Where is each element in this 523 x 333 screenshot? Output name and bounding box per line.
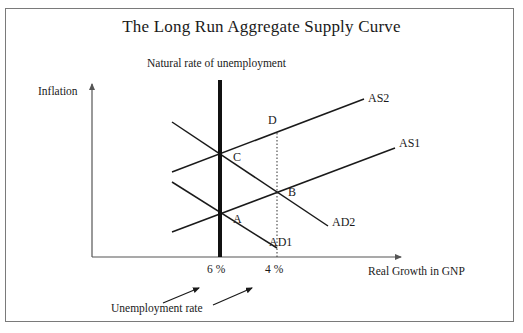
x-axis-tick-4-percent: 4 % (265, 264, 283, 276)
natural-rate-label: Natural rate of unemployment (147, 58, 286, 70)
curve-as2 (172, 99, 364, 172)
figure-title: The Long Run Aggregate Supply Curve (0, 18, 523, 35)
curve-ad2 (172, 122, 328, 226)
curve-label-as2: AS2 (368, 92, 389, 104)
point-label-d: D (268, 114, 277, 126)
x-axis-tick-6-percent: 6 % (207, 264, 225, 276)
curve-ad1 (172, 182, 277, 248)
point-label-c: C (233, 151, 241, 163)
curve-label-ad1: AD1 (269, 236, 292, 248)
unemployment-rate-annotation: Unemployment rate (111, 303, 203, 315)
point-label-a: A (233, 213, 242, 225)
unemployment-arrow-1 (163, 288, 199, 303)
point-label-b: B (288, 186, 296, 198)
curve-as1 (172, 148, 395, 232)
economics-diagram-figure: The Long Run Aggregate Supply Curve Natu… (0, 0, 523, 333)
curve-label-as1: AS1 (399, 137, 420, 149)
y-axis-label: Inflation (38, 86, 78, 98)
diagram-canvas (0, 0, 523, 333)
unemployment-arrow-2 (213, 288, 252, 305)
curve-label-ad2: AD2 (332, 216, 355, 228)
x-axis-label: Real Growth in GNP (368, 266, 465, 278)
